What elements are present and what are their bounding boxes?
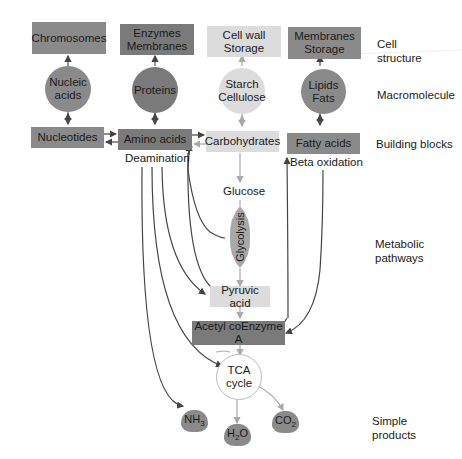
glycolysis-shape: Glycolysis [229,206,251,268]
glycolysis-label: Glycolysis [234,212,246,262]
box-carbohydrates: Carbohydrates [206,131,279,152]
circle-label: Cellulose [218,91,265,104]
box-label: Chromosomes [32,32,107,45]
level-label-macromolecule: Macromolecule [377,88,455,102]
box-label: Fatty acids [296,137,352,150]
level-text: structure [377,51,422,65]
label-beta-oxidation: Beta oxidation [290,155,363,169]
box-label: Storage [224,42,264,55]
box-label: Membranes [127,40,188,53]
box-label: Cell wall [223,29,266,42]
formula-base: CO [275,414,292,426]
product-nh3: NH3 [181,410,208,432]
box-label: Amino acids [124,133,187,146]
level-text: Simple [372,414,416,428]
level-label-building-blocks: Building blocks [376,137,453,151]
formula-sub: 3 [200,419,204,428]
box-label: Enzymes [133,27,180,40]
formula-base: NH [184,413,200,425]
level-label-simple-products: Simple products [372,414,416,442]
product-h2o: H2O [224,424,251,446]
product-label: CO2 [275,414,296,429]
circle-label: Proteins [134,84,176,97]
circle-label: Starch [225,78,258,91]
circle-label: TCA [228,364,251,377]
circle-nucleic-acids: Nucleic acids [45,66,91,112]
circle-label: acids [55,89,82,102]
box-cellwall-storage: Cell wall Storage [207,26,281,57]
formula-base: H [227,427,235,439]
level-text: Metabolic [375,237,424,251]
box-label: Carbohydrates [205,135,280,148]
box-label: Storage [304,43,344,56]
circle-label: Fats [312,92,334,105]
level-label-metabolic-pathways: Metabolic pathways [375,237,424,265]
box-label: Acetyl coEnzyme A [192,320,285,346]
box-pyruvic-acid: Pyruvic acid [210,286,270,307]
box-enzymes-membranes: Enzymes Membranes [120,24,194,55]
product-co2: CO2 [272,411,299,433]
label-glucose: Glucose [223,184,265,198]
circle-proteins: Proteins [132,67,178,113]
box-membranes-storage: Membranes Storage [288,27,361,59]
product-label: NH3 [184,413,204,428]
box-label: Nucleotides [37,131,97,144]
level-label-cell-structure: Cell structure [377,37,422,65]
circle-tca-cycle: TCA cycle [216,354,262,400]
formula-sub: 2 [292,420,296,429]
circle-label: Nucleic [49,76,87,89]
formula-end: O [239,427,248,439]
circle-starch-cellulose: Starch Cellulose [219,68,265,114]
circle-label: Lipids [308,79,338,92]
box-nucleotides: Nucleotides [31,127,104,148]
level-text: products [372,428,416,442]
label-deamination: Deamination [125,151,190,165]
box-amino-acids: Amino acids [118,129,192,150]
box-chromosomes: Chromosomes [32,22,106,54]
box-label: Membranes [294,30,355,43]
box-fatty-acids: Fatty acids [287,133,360,154]
circle-lipids-fats: Lipids Fats [301,69,346,114]
box-label: Pyruvic acid [210,284,270,310]
circle-label: cycle [226,377,252,390]
level-text: pathways [375,251,424,265]
product-label: H2O [227,427,248,442]
level-text: Cell [377,37,422,51]
box-acetyl-coa: Acetyl coEnzyme A [192,321,285,345]
